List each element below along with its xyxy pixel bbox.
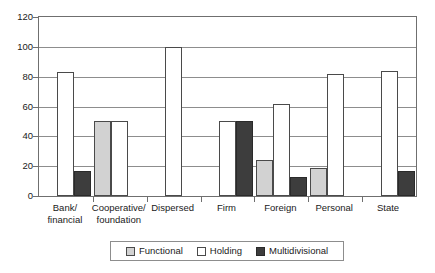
bar-holding [381,71,398,196]
bar-functional [256,160,273,196]
bar-multidivisional [74,171,91,196]
x-category-label: Personal [307,202,361,214]
x-category-label-line-1: foundation [92,214,146,226]
bar-group [147,17,201,196]
bar-multidivisional [398,171,415,196]
x-category-label-line-1: financial [38,214,92,226]
y-tick-label-40: 40 [3,131,33,141]
bar-group [308,17,362,196]
x-category-label-line-0: Bank/ [38,202,92,214]
legend-entry-holding: Holding [197,246,242,256]
legend-label: Functional [139,246,183,256]
x-category-label: Bank/financial [38,202,92,225]
x-category-label-line-0: Cooperative/ [92,202,146,214]
x-category-label-line-0: Foreign [253,202,307,214]
y-axis: 020406080100120 [0,16,33,197]
bar-holding [165,47,182,196]
bar-group [201,17,255,196]
x-category-label: Cooperative/foundation [92,202,146,225]
x-category-label-line-0: State [361,202,415,214]
y-tick-label-0: 0 [3,191,33,201]
legend-swatch-icon [256,247,265,256]
y-tick-label-80: 80 [3,72,33,82]
legend-swatch-icon [197,247,206,256]
bar-holding [273,104,290,196]
bar-holding [219,121,236,196]
bar-group [39,17,93,196]
chart-legend: FunctionalHoldingMultidivisional [110,241,344,261]
x-axis-labels: Bank/financialCooperative/foundationDisp… [38,202,417,232]
x-category-label-line-0: Dispersed [146,202,200,214]
x-category-label: State [361,202,415,214]
legend-label: Holding [210,246,242,256]
legend-entry-functional: Functional [126,246,183,256]
legend-label: Multidivisional [269,246,328,256]
y-tick-label-60: 60 [3,102,33,112]
x-category-label: Firm [200,202,254,214]
bar-multidivisional [290,177,307,196]
x-category-label: Foreign [253,202,307,214]
y-tick-label-20: 20 [3,161,33,171]
y-tick-label-120: 120 [3,12,33,22]
x-category-label: Dispersed [146,202,200,214]
legend-swatch-icon [126,247,135,256]
bars-layer [39,17,416,196]
bar-chart: 020406080100120 Bank/financialCooperativ… [0,0,435,273]
bar-multidivisional [236,121,253,196]
bar-functional [310,168,327,196]
legend-entry-multidivisional: Multidivisional [256,246,328,256]
x-category-label-line-0: Personal [307,202,361,214]
bar-holding [111,121,128,196]
bar-holding [327,74,344,196]
bar-holding [57,72,74,196]
x-category-label-line-0: Firm [200,202,254,214]
bar-group [93,17,147,196]
bar-functional [94,121,111,196]
bar-group [254,17,308,196]
y-tick-label-100: 100 [3,42,33,52]
bar-group [362,17,416,196]
